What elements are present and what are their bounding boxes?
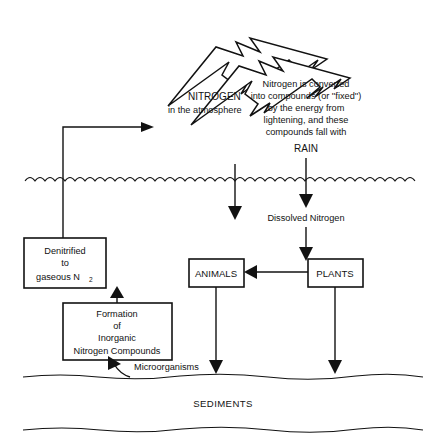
dissolved-nitrogen-label: Dissolved Nitrogen	[267, 213, 344, 223]
formation-line1: Formation	[96, 309, 137, 319]
caption-line-4: lightening, and these	[264, 115, 349, 125]
caption-line-1: Nitrogen is converted	[263, 79, 350, 89]
plants-to-animals-arrow	[244, 265, 308, 279]
caption-line-5: compounds fall with	[266, 127, 347, 137]
microorganisms-label: Microorganisms	[134, 362, 199, 372]
denitrified-line1: Denitrified	[44, 246, 85, 256]
denitrification-flow-arrow	[63, 122, 154, 238]
dissolved-nitrogen-to-plants-arrow	[299, 227, 313, 261]
sediments-label: SEDIMENTS	[193, 398, 253, 409]
caption-line-2: into compounds (or ''fixed'')	[251, 91, 362, 101]
caption-line-3: by the energy from	[268, 103, 345, 113]
box-animals: ANIMALS	[189, 259, 244, 287]
sediment-bottom-line	[23, 427, 423, 432]
plants-label: PLANTS	[316, 268, 353, 279]
formation-line2: of	[113, 321, 121, 331]
denitrified-line3: gaseous N	[36, 272, 80, 282]
rain-label: RAIN	[294, 143, 318, 154]
plants-to-sediment-arrow	[328, 287, 342, 374]
sediment-top-line	[23, 374, 423, 379]
rain-arrow	[299, 158, 313, 208]
water-surface-line	[25, 178, 415, 182]
animals-to-sediment-arrow	[209, 287, 223, 374]
nitrogen-cycle-diagram: NITROGEN in the atmosphere Nitrogen is c…	[0, 0, 446, 443]
nitrogen-atmosphere-label-line1: NITROGEN	[188, 91, 241, 102]
formation-to-denitrified-arrow	[110, 286, 124, 303]
denitrified-line3-subscript: 2	[89, 276, 93, 283]
formation-line3: Inorganic	[98, 333, 136, 343]
box-formation: Formation of Inorganic Nitrogen Compound…	[63, 303, 172, 360]
denitrified-line2: to	[61, 258, 69, 268]
box-denitrified: Denitrified to gaseous N 2	[24, 238, 106, 288]
diagram-canvas: NITROGEN in the atmosphere Nitrogen is c…	[0, 0, 446, 443]
formation-line4: Nitrogen Compounds	[74, 346, 161, 356]
atmospheric-deposition-arrow	[228, 164, 242, 220]
box-plants: PLANTS	[308, 259, 363, 287]
nitrogen-atmosphere-label-line2: in the atmosphere	[168, 105, 242, 115]
animals-label: ANIMALS	[195, 268, 237, 279]
